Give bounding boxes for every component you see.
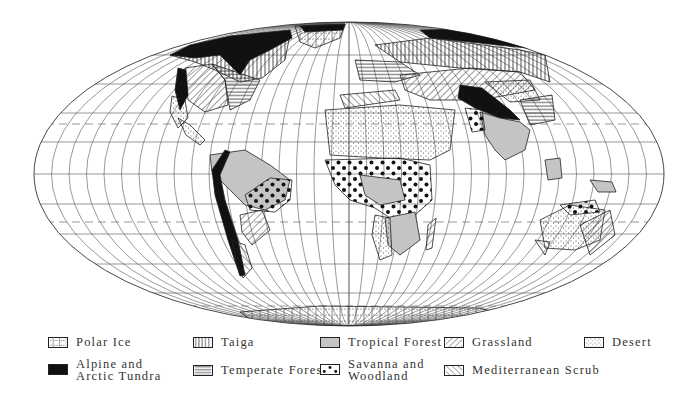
tropical-forest-swatch-icon bbox=[320, 337, 340, 348]
legend-label: Taiga bbox=[221, 336, 255, 348]
legend-item-polar-ice: Polar Ice bbox=[48, 336, 132, 348]
legend-label: Tropical Forest bbox=[348, 336, 442, 348]
legend-item-temperate-forest: Temperate Forest bbox=[193, 364, 327, 376]
legend-label: Alpine and Arctic Tundra bbox=[76, 358, 161, 382]
legend-label: Polar Ice bbox=[76, 336, 132, 348]
legend-label: Desert bbox=[612, 336, 652, 348]
legend: Polar Ice Taiga Tropical Forest Grasslan… bbox=[0, 330, 697, 406]
legend-item-alpine-tundra: Alpine and Arctic Tundra bbox=[48, 358, 161, 382]
sa-grassland bbox=[240, 210, 270, 245]
borneo bbox=[545, 158, 562, 180]
antarctica bbox=[240, 306, 505, 326]
legend-item-grassland: Grassland bbox=[444, 336, 533, 348]
australia-scrub bbox=[535, 240, 550, 255]
polar-ice-swatch-icon bbox=[48, 337, 68, 348]
grassland-swatch-icon bbox=[444, 337, 464, 348]
legend-item-desert: Desert bbox=[584, 336, 652, 348]
legend-label: Savanna and Woodland bbox=[348, 358, 425, 382]
africa-south-desert bbox=[372, 215, 392, 260]
china-temperate bbox=[520, 95, 555, 125]
scrub-swatch-icon bbox=[444, 365, 464, 376]
legend-item-mediterranean-scrub: Mediterranean Scrub bbox=[444, 364, 600, 376]
temperate-forest-swatch-icon bbox=[193, 365, 213, 376]
legend-label: Grassland bbox=[472, 336, 533, 348]
new-guinea bbox=[590, 180, 616, 192]
sahara-desert bbox=[325, 105, 455, 160]
legend-item-tropical-forest: Tropical Forest bbox=[320, 336, 442, 348]
legend-item-savanna: Savanna and Woodland bbox=[320, 358, 425, 382]
legend-item-taiga: Taiga bbox=[193, 336, 255, 348]
world-biome-map bbox=[0, 0, 697, 335]
legend-label: Temperate Forest bbox=[221, 364, 327, 376]
taiga-swatch-icon bbox=[193, 337, 213, 348]
desert-swatch-icon bbox=[584, 337, 604, 348]
legend-label: Mediterranean Scrub bbox=[472, 364, 600, 376]
india-savanna bbox=[465, 108, 485, 132]
tundra-swatch-icon bbox=[48, 364, 68, 375]
savanna-swatch-icon bbox=[320, 364, 340, 375]
